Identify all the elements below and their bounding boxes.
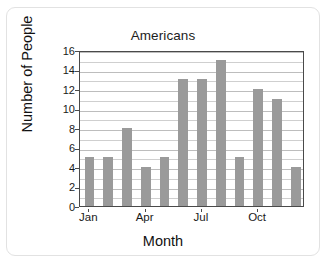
gridline xyxy=(80,72,303,73)
bar-nov xyxy=(272,99,282,206)
bar-sep xyxy=(235,157,245,206)
y-tick-label: 14 xyxy=(55,65,75,76)
gridline xyxy=(80,140,303,141)
gridline xyxy=(80,120,303,121)
y-tick-label: 10 xyxy=(55,104,75,115)
chart-title: Americans xyxy=(7,28,319,43)
y-tick-label: 0 xyxy=(55,202,75,213)
gridline xyxy=(80,101,303,102)
y-axis-title: Number of People xyxy=(19,0,35,149)
x-tick-mark xyxy=(201,209,202,212)
x-axis-title: Month xyxy=(7,233,319,249)
gridline xyxy=(80,130,303,131)
chart-card: Americans Number of People 0246810121416… xyxy=(6,7,320,256)
gridline xyxy=(80,150,303,151)
gridline xyxy=(80,179,303,180)
gridline xyxy=(80,198,303,199)
gridline xyxy=(80,91,303,92)
y-tick-label: 8 xyxy=(55,124,75,135)
x-tick-label-jul: Jul xyxy=(194,211,209,223)
x-tick-mark xyxy=(257,209,258,212)
y-tick-label: 16 xyxy=(55,46,75,57)
y-tick-label: 6 xyxy=(55,143,75,154)
bar-jun xyxy=(178,79,188,206)
bar-feb xyxy=(103,157,113,206)
gridline xyxy=(80,52,303,53)
x-tick-mark xyxy=(88,209,89,212)
bar-mar xyxy=(122,128,132,206)
x-tick-mark xyxy=(145,209,146,212)
gridline xyxy=(80,62,303,63)
gridline xyxy=(80,111,303,112)
bar-dec xyxy=(291,167,301,206)
bar-apr xyxy=(141,167,151,206)
gridline xyxy=(80,81,303,82)
y-tick-label: 4 xyxy=(55,163,75,174)
gridline xyxy=(80,159,303,160)
y-tick-label: 2 xyxy=(55,182,75,193)
bar-aug xyxy=(216,60,226,206)
y-tick-mark xyxy=(75,207,79,208)
y-axis-tick-labels: 0246810121416 xyxy=(51,51,75,207)
x-tick-label-jan: Jan xyxy=(79,211,98,223)
plot-area xyxy=(79,51,304,207)
x-tick-label-apr: Apr xyxy=(136,211,154,223)
gridline xyxy=(80,169,303,170)
bar-may xyxy=(160,157,170,206)
bar-jan xyxy=(85,157,95,206)
gridline xyxy=(80,189,303,190)
bar-oct xyxy=(253,89,263,206)
x-tick-label-oct: Oct xyxy=(248,211,266,223)
y-tick-label: 12 xyxy=(55,85,75,96)
x-axis-tick-labels: JanAprJulOct xyxy=(79,209,304,227)
bar-jul xyxy=(197,79,207,206)
